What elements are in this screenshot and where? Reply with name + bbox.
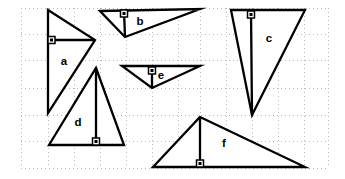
triangle-b: [100, 9, 200, 37]
triangle-label-e: e: [158, 69, 164, 81]
geometry-figure: abcdef: [0, 0, 345, 179]
triangle-label-a: a: [61, 55, 68, 67]
right-angle-dot-e: [151, 69, 154, 72]
triangle-label-c: c: [266, 32, 273, 44]
right-angle-dot-f: [199, 162, 202, 165]
altitude-line-c: [251, 11, 252, 115]
triangle-label-f: f: [222, 137, 226, 149]
right-angle-dot-c: [250, 13, 253, 16]
triangle-label-b: b: [136, 15, 143, 27]
right-angle-dot-a: [50, 39, 53, 42]
right-angle-dot-b: [123, 12, 126, 15]
triangle-c: [231, 10, 305, 115]
triangle-label-d: d: [74, 116, 81, 128]
geometry-canvas: abcdef: [0, 0, 345, 179]
right-angle-dot-d: [95, 140, 98, 143]
